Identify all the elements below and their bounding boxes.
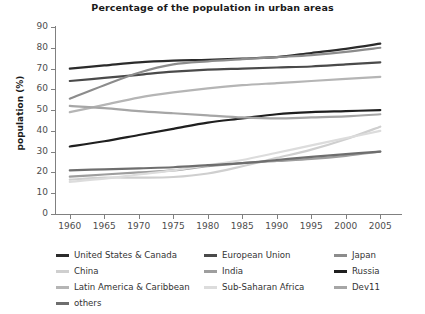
series-lines: [56, 27, 401, 214]
x-tick-mark: [242, 214, 243, 219]
legend-label: Latin America & Caribbean: [74, 282, 190, 293]
legend-swatch-icon: [334, 254, 347, 257]
y-tick-label: 20: [8, 166, 48, 176]
x-tick-mark: [277, 214, 278, 219]
plot-area: [56, 27, 401, 214]
legend-item[interactable]: China: [56, 263, 204, 279]
legend-swatch-icon: [56, 302, 69, 305]
legend-label: India: [222, 266, 243, 277]
legend-item[interactable]: European Union: [204, 247, 334, 263]
y-tick: 20: [0, 172, 56, 173]
y-tick-label: 40: [8, 125, 48, 135]
y-tick: 90: [0, 27, 56, 28]
legend-label: Dev11: [352, 282, 380, 293]
legend-label: European Union: [222, 250, 291, 261]
y-tick: 10: [0, 193, 56, 194]
legend-swatch-icon: [204, 254, 217, 257]
y-tick-label: 90: [8, 21, 48, 31]
y-tick-label: 80: [8, 42, 48, 52]
legend-item[interactable]: India: [204, 263, 334, 279]
x-tick-mark: [70, 214, 71, 219]
legend-item[interactable]: Sub-Saharan Africa: [204, 279, 334, 295]
legend-item[interactable]: Russia: [334, 263, 420, 279]
legend-row: ChinaIndiaRussia: [56, 263, 421, 279]
legend-item[interactable]: Japan: [334, 247, 420, 263]
chart-container: Percentage of the population in urban ar…: [0, 0, 425, 314]
x-tick-mark: [380, 214, 381, 219]
legend-swatch-icon: [56, 270, 69, 273]
series-line: [70, 127, 381, 180]
legend-swatch-icon: [204, 286, 217, 289]
y-tick: 70: [0, 69, 56, 70]
x-tick-mark: [173, 214, 174, 219]
x-tick-label: 2005: [360, 221, 400, 231]
y-tick-label: 70: [8, 63, 48, 73]
legend-label: China: [74, 266, 99, 277]
y-tick-label: 50: [8, 104, 48, 114]
legend-item[interactable]: Dev11: [334, 279, 420, 295]
legend-label: Japan: [352, 250, 376, 261]
legend-item[interactable]: others: [56, 295, 204, 311]
y-tick: 30: [0, 152, 56, 153]
x-axis-line: [55, 214, 402, 215]
x-tick-mark: [104, 214, 105, 219]
legend-swatch-icon: [334, 286, 347, 289]
legend-label: Sub-Saharan Africa: [222, 282, 304, 293]
y-tick: 50: [0, 110, 56, 111]
y-tick-mark: [51, 214, 56, 215]
y-tick-label: 30: [8, 146, 48, 156]
x-tick-mark: [311, 214, 312, 219]
legend-item[interactable]: United States & Canada: [56, 247, 204, 263]
chart-legend: United States & CanadaEuropean UnionJapa…: [56, 247, 421, 311]
legend-label: Russia: [352, 266, 380, 277]
chart-title: Percentage of the population in urban ar…: [0, 2, 425, 13]
legend-label: others: [74, 298, 101, 309]
legend-row: Latin America & CaribbeanSub-Saharan Afr…: [56, 279, 421, 295]
y-tick: 40: [0, 131, 56, 132]
legend-swatch-icon: [334, 270, 347, 273]
legend-swatch-icon: [56, 286, 69, 289]
y-tick: 60: [0, 89, 56, 90]
legend-row: United States & CanadaEuropean UnionJapa…: [56, 247, 421, 263]
y-tick: 0: [0, 214, 56, 215]
legend-item[interactable]: Latin America & Caribbean: [56, 279, 204, 295]
y-tick-label: 10: [8, 187, 48, 197]
y-tick-label: 60: [8, 83, 48, 93]
legend-swatch-icon: [204, 270, 217, 273]
series-line: [70, 48, 381, 99]
legend-row: others: [56, 295, 421, 311]
y-tick: 80: [0, 48, 56, 49]
legend-swatch-icon: [56, 254, 69, 257]
series-line: [70, 152, 381, 171]
x-tick-mark: [346, 214, 347, 219]
legend-label: United States & Canada: [74, 250, 177, 261]
y-tick-label: 0: [8, 208, 48, 218]
series-line: [70, 77, 381, 112]
x-tick-mark: [208, 214, 209, 219]
x-tick-mark: [139, 214, 140, 219]
